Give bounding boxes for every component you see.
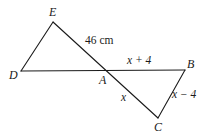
vertex-label-E: E	[49, 6, 56, 18]
measure-label-x-plus-4: x + 4	[127, 55, 151, 67]
measure-label-x-minus-4: x − 4	[172, 89, 196, 101]
segment-DB	[21, 70, 185, 71]
vertex-label-D: D	[9, 69, 18, 81]
vertex-label-C: C	[154, 121, 162, 133]
measure-label-46cm: 46 cm	[85, 35, 113, 47]
figure-lines	[0, 0, 214, 136]
geometry-figure: E D A B C 46 cm x + 4 x x − 4	[0, 0, 214, 136]
measure-label-x: x	[121, 92, 126, 104]
vertex-label-A: A	[99, 74, 106, 86]
segment-DE	[21, 22, 53, 71]
vertex-label-B: B	[187, 58, 194, 70]
